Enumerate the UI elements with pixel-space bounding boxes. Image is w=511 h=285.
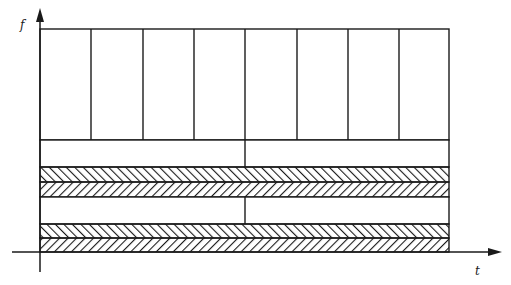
x-axis-arrow-icon xyxy=(488,248,502,256)
x-axis-label: t xyxy=(475,264,480,278)
region-hatch-band-2a xyxy=(40,224,449,238)
region-wide-cells-2 xyxy=(40,197,449,224)
region-hatch-band-1b xyxy=(40,182,449,197)
region-hatch-band-1a xyxy=(40,167,449,182)
y-axis-arrow-icon xyxy=(36,8,44,22)
region-tall-cells xyxy=(40,29,449,140)
time-frequency-diagram xyxy=(0,0,511,285)
region-hatch-band-2b xyxy=(40,238,449,252)
region-wide-cells-1 xyxy=(40,140,449,167)
grid-regions xyxy=(40,29,449,252)
y-axis-label: f xyxy=(20,18,24,32)
